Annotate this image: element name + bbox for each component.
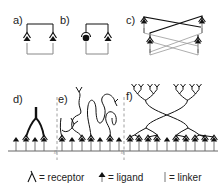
panel-a-label: a)	[13, 14, 23, 26]
ligand-icon	[105, 33, 112, 42]
panel-c-label: c)	[126, 14, 135, 26]
legend-receptor-text: = receptor	[39, 172, 85, 183]
ligand-icon	[136, 135, 143, 151]
panel-d	[13, 107, 48, 151]
ligand-icon	[79, 135, 86, 151]
panel-c: c)	[126, 14, 205, 55]
legend-linker-text: = linker	[169, 172, 202, 183]
panel-b-label: b)	[60, 14, 70, 26]
ligand-icon	[107, 135, 114, 151]
ligand-icon	[199, 17, 206, 33]
ligand-icon	[41, 135, 48, 151]
ligand-icon	[69, 137, 75, 151]
ligand-icon	[32, 137, 38, 151]
ligand-icon	[192, 135, 199, 151]
receptor-icon	[28, 171, 36, 182]
ligand-icon	[88, 135, 95, 151]
ligand-icon	[141, 17, 148, 33]
ligand-icon	[183, 135, 190, 151]
panel-e-label: e)	[58, 93, 68, 105]
ligand-icon	[173, 135, 180, 151]
ligand-icon	[97, 137, 103, 151]
ligand-icon	[24, 33, 31, 42]
ligand-icon	[50, 33, 57, 42]
ligand-icon	[164, 137, 170, 151]
panel-b: b)	[60, 14, 112, 54]
legend: = receptor = ligand = linker	[28, 171, 202, 183]
panel-a: a)	[13, 14, 57, 54]
ligand-icon	[127, 135, 134, 151]
panel-f	[127, 84, 218, 151]
ligand-icon	[23, 135, 30, 151]
ligand-icon	[145, 135, 152, 151]
ligand-icon	[202, 135, 209, 151]
ligand-icon	[59, 135, 66, 151]
panel-d-label: d)	[13, 93, 23, 105]
panel-e	[59, 87, 123, 151]
ligand-icon	[211, 135, 218, 151]
ligand-icon	[13, 137, 19, 151]
panel-f-label: f)	[126, 90, 133, 102]
ligand-icon	[154, 135, 161, 151]
ball-socket-icon	[82, 33, 91, 42]
ligand-icon	[99, 172, 106, 182]
multivalent-binding-diagram: a) b) c)	[0, 0, 221, 190]
ligand-icon	[147, 37, 154, 53]
legend-ligand-text: = ligand	[108, 172, 143, 183]
